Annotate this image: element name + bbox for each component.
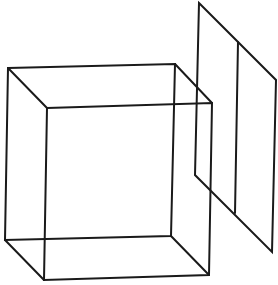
cube-and-plane-diagram [0, 0, 278, 285]
cube [5, 64, 212, 280]
cube-depth-edge-bottom-right [171, 236, 209, 275]
plane [195, 3, 276, 252]
cube-depth-edge-top-left [8, 68, 47, 108]
plane-divider [235, 42, 238, 213]
cube-depth-edge-bottom-left [5, 240, 44, 280]
cube-depth-edge-top-right [175, 64, 212, 103]
